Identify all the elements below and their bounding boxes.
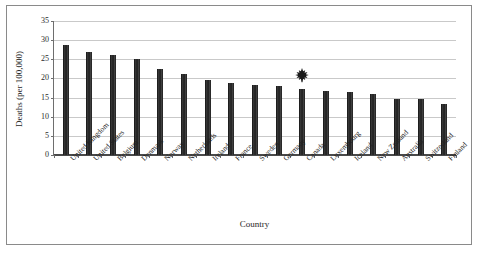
- x-tick-label: Sweden: [258, 157, 263, 162]
- bar-slot: [220, 21, 244, 155]
- y-tick-label-10: 10: [41, 113, 49, 121]
- bar[interactable]: [252, 85, 258, 155]
- x-tick-label: France: [234, 157, 239, 162]
- y-tick-label-0: 0: [45, 151, 49, 159]
- bar-slot: [172, 21, 196, 155]
- bar-slot: [314, 21, 338, 155]
- x-axis-tick-labels: United KingdomUnited StatesBelgiumDenmar…: [53, 157, 456, 217]
- bar-slot: [409, 21, 433, 155]
- bar-slot: [54, 21, 78, 155]
- bar-slot: [267, 21, 291, 155]
- x-axis-title: Country: [53, 220, 456, 229]
- y-tick-label-35: 35: [41, 17, 49, 25]
- bar[interactable]: [228, 83, 234, 155]
- y-tick-label-25: 25: [41, 55, 49, 63]
- bar-slot: [125, 21, 149, 155]
- bar-slot: [290, 21, 314, 155]
- x-tick-label: Luxembourg: [329, 157, 334, 162]
- x-tick-label: Canada: [305, 157, 310, 162]
- y-axis-title-container: Deaths (per 100,000): [12, 21, 26, 156]
- x-tick-label: Switzerland: [424, 157, 429, 162]
- x-tick-label: Ireland: [211, 157, 216, 162]
- x-tick-label: Australia: [400, 157, 405, 162]
- x-tick-label: Iceland: [353, 157, 358, 162]
- y-tick-label-15: 15: [41, 94, 49, 102]
- y-axis-title: Deaths (per 100,000): [15, 50, 24, 126]
- y-tick-label-5: 5: [45, 132, 49, 140]
- x-tick-label: Denmark: [140, 157, 145, 162]
- x-tick-label: Germany: [282, 157, 287, 162]
- x-tick-label: Norway: [163, 157, 168, 162]
- x-tick-label: Belgium: [116, 157, 121, 162]
- chart-figure: Deaths (per 100,000) 05101520253035 Unit…: [0, 0, 479, 257]
- bar-slot: [149, 21, 173, 155]
- x-tick-label: United Kingdom: [69, 157, 74, 162]
- bar[interactable]: [63, 45, 69, 155]
- x-tick-label: Netherlands: [187, 157, 192, 162]
- maple-leaf-icon: [294, 67, 310, 83]
- y-tick-label-30: 30: [41, 36, 49, 44]
- x-tick-label: New Zealand: [376, 157, 381, 162]
- bar-slot: [361, 21, 385, 155]
- bar-slot: [243, 21, 267, 155]
- y-tick-label-20: 20: [41, 74, 49, 82]
- x-tick-label: United States: [92, 157, 97, 162]
- x-tick-label: Finland: [447, 157, 452, 162]
